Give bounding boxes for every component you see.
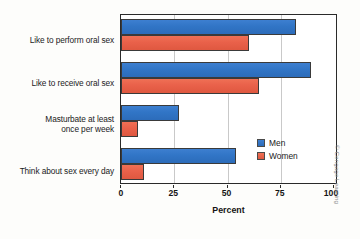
plot-area: Men Women bbox=[120, 14, 337, 184]
category-label-receive-oral-sex: Like to receive oral sex bbox=[2, 78, 114, 88]
tick-label-25: 25 bbox=[168, 188, 178, 198]
copyright-credit: © Cengage Learning bbox=[334, 145, 341, 204]
bar-men-receive-oral-sex bbox=[121, 62, 311, 78]
legend-item-women: Women bbox=[257, 150, 309, 162]
bar-men-perform-oral-sex bbox=[121, 19, 296, 35]
tick-label-75: 75 bbox=[275, 188, 285, 198]
tick-label-0: 0 bbox=[119, 188, 124, 198]
bar-women-receive-oral-sex bbox=[121, 78, 259, 94]
category-label-line: Like to receive oral sex bbox=[32, 78, 114, 88]
bar-men-masturbate-weekly bbox=[121, 105, 179, 121]
category-axis-labels: Like to perform oral sex Like to receive… bbox=[0, 14, 114, 184]
category-label-line: Like to perform oral sex bbox=[30, 35, 114, 45]
chart-legend: Men Women bbox=[257, 137, 309, 163]
category-label-line: once per week bbox=[2, 124, 114, 134]
tick-label-50: 50 bbox=[222, 188, 232, 198]
bar-women-perform-oral-sex bbox=[121, 35, 249, 51]
bar-men-think-about-sex-daily bbox=[121, 148, 236, 164]
x-axis-title: Percent bbox=[120, 205, 337, 215]
x-axis-ticks: 0 25 50 75 100 bbox=[120, 185, 337, 199]
category-label-masturbate-weekly: Masturbate at least once per week bbox=[2, 114, 114, 134]
category-label-line: Masturbate at least bbox=[2, 114, 114, 124]
category-label-think-about-sex-daily: Think about sex every day bbox=[2, 166, 114, 176]
legend-label-women: Women bbox=[269, 151, 298, 161]
legend-label-men: Men bbox=[269, 138, 285, 148]
bar-chart-figure: Like to perform oral sex Like to receive… bbox=[0, 0, 360, 239]
category-label-perform-oral-sex: Like to perform oral sex bbox=[2, 35, 114, 45]
category-label-line: Think about sex every day bbox=[20, 166, 114, 176]
legend-swatch-women-icon bbox=[257, 152, 265, 160]
bar-women-think-about-sex-daily bbox=[121, 164, 144, 180]
legend-swatch-men-icon bbox=[257, 139, 265, 147]
legend-item-men: Men bbox=[257, 137, 309, 149]
bar-women-masturbate-weekly bbox=[121, 121, 138, 137]
